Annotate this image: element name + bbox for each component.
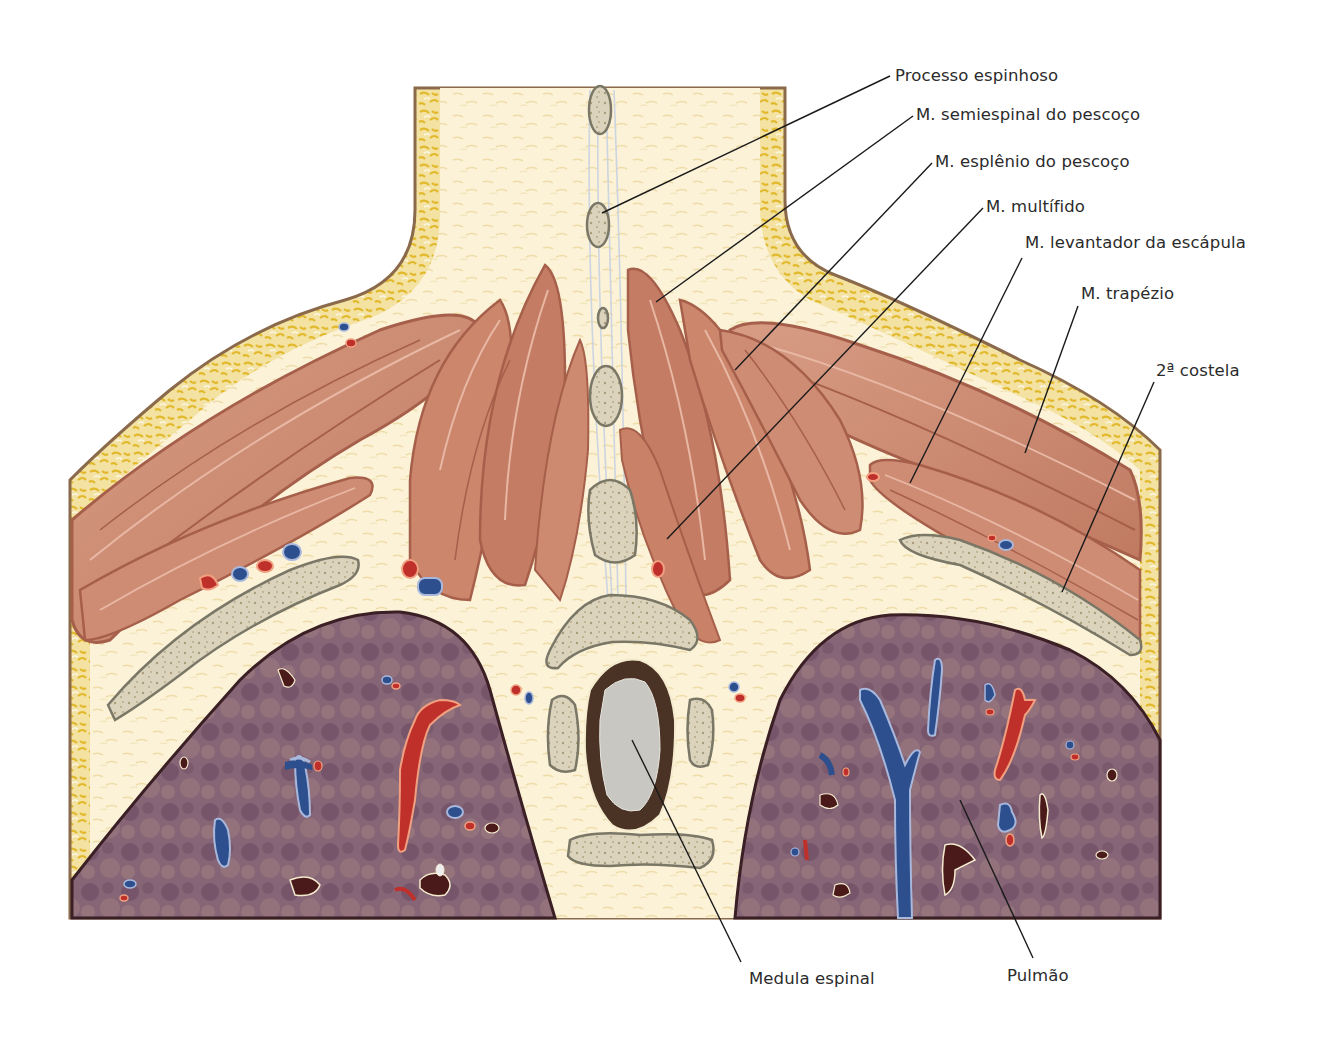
label-m-semiespinal-do-pescoco: M. semiespinal do pescoço [916, 105, 1140, 125]
label-pulmao: Pulmão [1007, 966, 1069, 986]
label-processo-espinhoso: Processo espinhoso [895, 66, 1058, 86]
label-medula-espinal: Medula espinal [749, 969, 875, 989]
label-m-multifido: M. multífido [986, 197, 1085, 217]
label-m-trapezio: M. trapézio [1081, 284, 1174, 304]
anatomy-figure: Processo espinhoso M. semiespinal do pes… [0, 0, 1327, 1058]
label-m-esplenio-do-pescoco: M. esplênio do pescoço [935, 152, 1130, 172]
label-segunda-costela: 2ª costela [1156, 361, 1240, 381]
spinal-cord [585, 659, 675, 830]
label-m-levantador-da-escapula: M. levantador da escápula [1025, 233, 1246, 253]
